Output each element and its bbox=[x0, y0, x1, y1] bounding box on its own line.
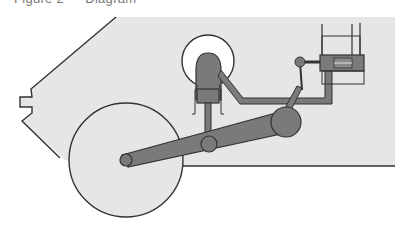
suspension-diagram bbox=[0, 0, 407, 241]
valve-pivot-joint bbox=[295, 57, 305, 67]
arm-pivot-joint bbox=[120, 154, 132, 166]
arm-end-joint bbox=[271, 107, 301, 137]
arm-hub-joint bbox=[201, 136, 217, 152]
piston-housing bbox=[197, 89, 219, 103]
